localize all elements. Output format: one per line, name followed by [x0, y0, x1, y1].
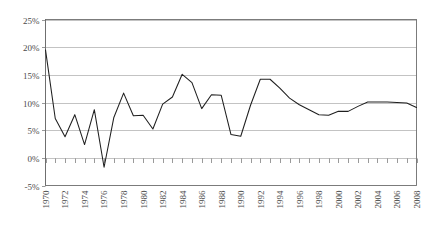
y-axis-tick-label: 20%	[23, 43, 40, 53]
y-axis-tick-label: -5%	[25, 182, 40, 192]
x-axis-tick-label: 1978	[119, 190, 129, 209]
x-axis-tick-label: 1974	[80, 190, 90, 209]
x-axis-tick-label: 1970	[41, 190, 51, 209]
x-axis-tick-label: 1988	[217, 190, 227, 209]
x-axis-tick-label: 1976	[99, 190, 109, 209]
x-axis-tick-label: 2006	[392, 190, 402, 209]
x-axis-tick-label: 1984	[178, 190, 188, 209]
x-axis-tick-label: 2008	[412, 190, 422, 209]
y-axis-tick-label: 5%	[28, 126, 41, 136]
line-chart: 25%20%15%10%5%0%-5% 19701972197419761978…	[0, 0, 438, 226]
y-axis-tick-label: 0%	[28, 154, 41, 164]
chart-canvas: 25%20%15%10%5%0%-5% 19701972197419761978…	[0, 0, 438, 226]
x-axis-tick-label: 1996	[295, 190, 305, 209]
x-axis-tick-label: 1972	[60, 191, 70, 209]
x-axis-tick-label: 1998	[314, 190, 324, 209]
x-axis-tick-label: 1980	[139, 190, 149, 209]
x-axis-tick-label: 1992	[256, 191, 266, 209]
x-axis-tick-label: 1986	[197, 190, 207, 209]
x-axis-tick-label: 1994	[275, 190, 285, 209]
y-axis-tick-label: 10%	[23, 99, 40, 109]
x-axis-tick-label: 2004	[373, 190, 383, 209]
x-axis-tick-label: 1990	[236, 190, 246, 209]
x-axis-tick-label: 2000	[334, 190, 344, 209]
y-axis-tick-label: 25%	[23, 16, 40, 26]
x-axis-tick-label: 1982	[158, 191, 168, 209]
y-axis-tick-label: 15%	[23, 71, 40, 81]
x-axis-tick-label: 2002	[353, 191, 363, 209]
